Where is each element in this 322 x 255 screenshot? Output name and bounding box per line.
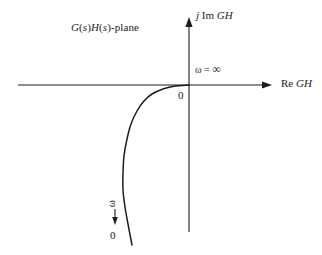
omega-direction-symbol: ω xyxy=(106,200,117,207)
imag-axis-title-j: j xyxy=(196,9,199,21)
real-axis-title-gh: GH xyxy=(296,77,312,89)
plane-caption-h: H xyxy=(91,21,99,33)
gh-locus-curve xyxy=(123,85,189,245)
imag-axis-title-im: Im xyxy=(202,9,214,21)
imag-axis-group xyxy=(185,17,192,232)
plane-caption-suffix: -plane xyxy=(111,21,139,33)
omega-infinity-symbol: ω xyxy=(195,64,202,75)
real-axis-group xyxy=(18,81,272,88)
omega-infinity-value: ∞ xyxy=(212,62,221,76)
real-axis-title-re: Re xyxy=(281,77,293,89)
omega-infinity-equals: = xyxy=(204,64,210,75)
plot-canvas xyxy=(0,0,322,255)
imag-axis-title: j Im GH xyxy=(196,10,233,21)
omega-infinity-label: ω = ∞ xyxy=(195,63,221,75)
plane-caption-g: G xyxy=(71,21,79,33)
plane-caption: G(s)H(s)-plane xyxy=(71,22,139,33)
imag-axis-arrowhead-icon xyxy=(185,17,192,27)
nyquist-plot-figure: G(s)H(s)-plane j Im GH Re GH ω = ∞ 0 ω 0 xyxy=(0,0,322,255)
imag-axis-title-gh: GH xyxy=(217,9,233,21)
omega-direction-arrow-icon xyxy=(112,209,118,225)
origin-zero-label: 0 xyxy=(178,90,184,101)
real-axis-arrowhead-icon xyxy=(262,81,272,88)
omega-zero-endpoint-label: 0 xyxy=(110,230,116,241)
real-axis-title: Re GH xyxy=(281,78,312,89)
